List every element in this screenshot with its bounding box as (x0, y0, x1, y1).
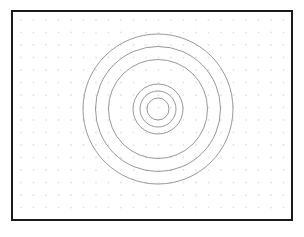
ring-3 (109, 60, 208, 159)
concentric-rings-group (13, 12, 291, 219)
ring-1 (83, 34, 233, 184)
ring-2 (96, 47, 221, 172)
screenshot-root (0, 0, 304, 237)
ring-5 (140, 91, 176, 127)
diagram-frame (11, 10, 293, 221)
ring-4 (133, 84, 183, 134)
ring-6 (147, 98, 169, 120)
